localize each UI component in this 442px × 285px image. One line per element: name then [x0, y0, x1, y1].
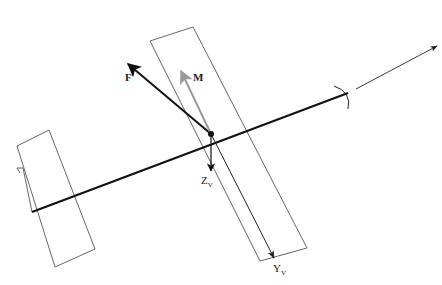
y-axis-label: YV — [273, 262, 286, 277]
tail-fin-outline — [17, 168, 32, 212]
force-label: F — [125, 71, 132, 83]
main-wing — [150, 27, 307, 261]
moment-label: M — [193, 71, 204, 83]
x-axis-arrow — [356, 46, 437, 89]
z-axis-label: ZV — [201, 174, 213, 189]
tail-plane — [17, 130, 95, 267]
aircraft-axes-diagram: XV YV ZV F M — [0, 0, 442, 285]
origin-point — [208, 131, 214, 137]
main-wing-outline — [150, 27, 307, 261]
fuselage-axis — [32, 93, 348, 212]
y-axis-arrow — [211, 134, 274, 258]
tail-plane-outline — [17, 130, 95, 267]
